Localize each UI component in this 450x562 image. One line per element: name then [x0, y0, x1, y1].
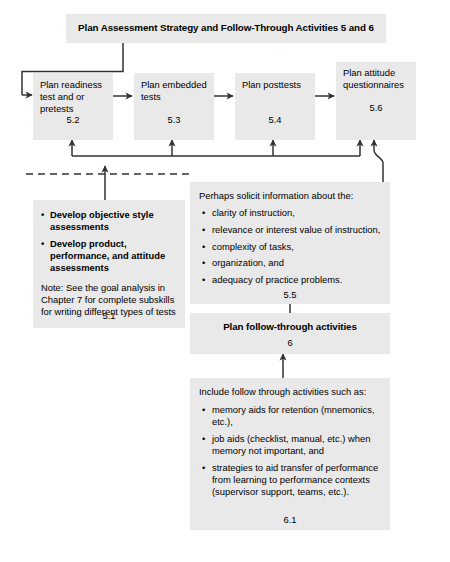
node-plan-readiness-test[interactable]: Plan readiness test and or pretests 5.2: [33, 73, 113, 140]
node-number: 5.2: [33, 114, 113, 126]
node-number: 6.1: [190, 514, 390, 526]
node-number: 5.6: [336, 102, 416, 114]
detail-bullet-list: • memory aids for retention (mnemonics, …: [199, 404, 384, 498]
solicit-heading: Perhaps solicit information about the:: [199, 190, 384, 202]
list-item: • memory aids for retention (mnemonics, …: [199, 404, 384, 428]
node-label: Plan follow-through activities: [194, 321, 386, 333]
bullet-icon: •: [202, 257, 205, 269]
list-item-label: strategies to aid transfer of performanc…: [212, 462, 378, 497]
bullet-icon: •: [41, 209, 44, 221]
node-plan-posttests[interactable]: Plan posttests 5.4: [235, 73, 315, 140]
node-label: Plan embedded tests: [141, 79, 208, 103]
diagram-canvas: Plan Assessment Strategy and Follow-Thro…: [0, 0, 450, 562]
list-item-label: job aids (checklist, manual, etc.) when …: [212, 433, 370, 456]
list-item-label: memory aids for retention (mnemonics, et…: [212, 404, 375, 427]
list-item-label: organization, and: [212, 257, 284, 268]
node-plan-attitude-questionnaires[interactable]: Plan attitude questionnaires 5.6: [336, 62, 416, 140]
bullet-icon: •: [202, 207, 205, 219]
node-number: 5.5: [190, 289, 390, 301]
page-title: Plan Assessment Strategy and Follow-Thro…: [66, 14, 386, 43]
list-item: • adequacy of practice problems.: [199, 274, 384, 286]
list-item: • job aids (checklist, manual, etc.) whe…: [199, 433, 384, 457]
bullet-icon: •: [202, 224, 205, 236]
node-solicit-information[interactable]: Perhaps solicit information about the: •…: [190, 182, 390, 304]
detail-heading: Include follow through activities such a…: [199, 386, 384, 398]
bullet-icon: •: [202, 241, 205, 253]
list-item: • Develop product, performance, and atti…: [41, 238, 178, 275]
list-item: • relevance or interest value of instruc…: [199, 224, 384, 236]
list-item: • strategies to aid transfer of performa…: [199, 462, 384, 499]
node-label: Plan attitude questionnaires: [343, 67, 411, 91]
node-plan-embedded-tests[interactable]: Plan embedded tests 5.3: [134, 73, 214, 140]
bullet-icon: •: [202, 274, 205, 286]
bullet-icon: •: [202, 462, 205, 474]
connector-5-5-to-5-6: [374, 140, 383, 182]
list-item: • organization, and: [199, 257, 384, 269]
node-develop-assessments[interactable]: • Develop objective style assessments • …: [33, 200, 185, 328]
node-number: 5.4: [235, 114, 315, 126]
list-item: • complexity of tasks,: [199, 241, 384, 253]
bullet-icon: •: [202, 433, 205, 445]
solicit-bullet-list: • clarity of instruction, • relevance or…: [199, 207, 384, 286]
node-number: 6: [190, 337, 390, 349]
list-item: • clarity of instruction,: [199, 207, 384, 219]
list-item-label: relevance or interest value of instructi…: [212, 224, 380, 235]
node-plan-follow-through-activities[interactable]: Plan follow-through activities 6: [190, 313, 390, 354]
node-number: 5.3: [134, 114, 214, 126]
node-number: 5.1: [33, 310, 185, 322]
list-item: • Develop objective style assessments: [41, 209, 178, 233]
assessment-bullet-list: • Develop objective style assessments • …: [41, 209, 178, 275]
list-item-label: clarity of instruction,: [212, 207, 295, 218]
node-label: Plan posttests: [242, 79, 309, 91]
bullet-icon: •: [41, 238, 44, 250]
list-item-label: adequacy of practice problems.: [212, 274, 342, 285]
bullet-icon: •: [202, 404, 205, 416]
node-label: Plan readiness test and or pretests: [40, 79, 107, 116]
node-follow-through-detail[interactable]: Include follow through activities such a…: [190, 378, 390, 530]
list-item-label: Develop objective style assessments: [50, 209, 154, 232]
list-item-label: Develop product, performance, and attitu…: [50, 238, 165, 273]
list-item-label: complexity of tasks,: [212, 241, 294, 252]
